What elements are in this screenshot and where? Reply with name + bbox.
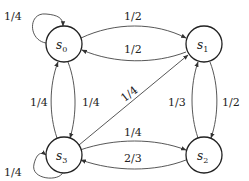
edge-label-s2-s1: 1/3 [168,96,186,109]
node-s3: s3 [46,137,82,173]
edge-label-s3-s3: 1/4 [4,166,22,179]
edge-s0-s3 [68,62,75,138]
edge-s1-s2 [210,62,217,138]
edge-label-s0-s3: 1/4 [82,96,100,109]
edge-s0-s1 [81,26,186,38]
edge-label-s1-s0: 1/2 [124,43,142,56]
edge-label-s0-s0: 1/4 [4,10,22,23]
edge-s3-s2 [80,141,186,150]
edge-label-s0-s1: 1/2 [124,10,142,23]
edge-s2-s1 [192,62,198,138]
edge-label-s3-s0: 1/4 [30,96,48,109]
node-s0: s0 [46,26,82,62]
node-s1: s1 [186,26,222,62]
edge-label-s2-s3: 2/3 [124,152,142,165]
edge-label-s3-s1: 1/4 [118,84,140,105]
edge-s3-s0 [51,62,58,138]
node-s2: s2 [186,137,222,173]
edge-label-s1-s2: 1/2 [222,96,240,109]
state-diagram: 1/4 1/2 1/2 1/4 1/4 1/4 1/3 1/2 1/4 2/3 … [0,0,249,181]
edge-label-s3-s2: 1/4 [124,126,142,139]
